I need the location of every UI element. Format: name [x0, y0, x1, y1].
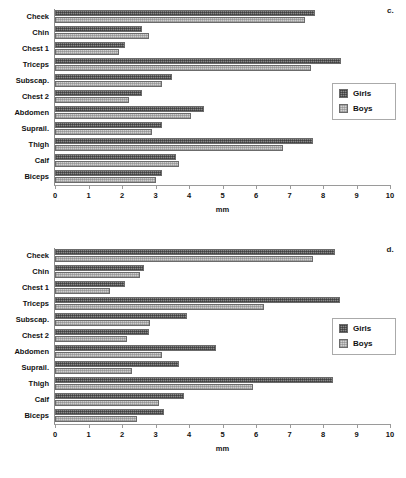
x-tick-mark	[223, 185, 224, 189]
x-tick-label: 7	[287, 191, 291, 200]
bar-girls-chest-1	[55, 281, 125, 287]
y-tick-label: Chest 2	[0, 89, 52, 105]
y-tick-label: Chest 2	[0, 328, 52, 344]
bar-girls-suprail	[55, 361, 179, 367]
bar-group	[55, 280, 390, 296]
legend-entry-girls: Girls	[339, 324, 389, 333]
x-tick-mark	[323, 424, 324, 428]
y-tick-label: Abdomen	[0, 105, 52, 121]
bar-boys-thigh	[55, 145, 283, 151]
bar-boys-subscap	[55, 81, 162, 87]
bar-girls-abdomen	[55, 345, 216, 351]
x-tick-label: 7	[287, 430, 291, 439]
y-tick-label: Biceps	[0, 408, 52, 424]
x-tick-label: 6	[254, 430, 258, 439]
legend-label-boys: Boys	[353, 339, 373, 348]
x-tick-mark	[357, 424, 358, 428]
bar-boys-chest-2	[55, 97, 129, 103]
y-tick-label: Calf	[0, 392, 52, 408]
bar-group	[55, 121, 390, 137]
bar-boys-cheek	[55, 256, 313, 262]
x-tick-label: 1	[86, 191, 90, 200]
bar-group	[55, 9, 390, 25]
bar-boys-chest-1	[55, 49, 119, 55]
bar-girls-biceps	[55, 170, 162, 176]
x-tick-mark	[290, 424, 291, 428]
bar-group	[55, 25, 390, 41]
legend-d: Girls Boys	[332, 318, 396, 355]
legend-swatch-boys-icon	[339, 104, 348, 113]
legend-swatch-girls-icon	[339, 324, 348, 333]
bar-group	[55, 57, 390, 73]
bar-group	[55, 360, 390, 376]
x-tick-label: 8	[321, 430, 325, 439]
y-tick-label: Chin	[0, 25, 52, 41]
x-tick-label: 9	[354, 191, 358, 200]
bar-girls-triceps	[55, 58, 341, 64]
x-tick-label: 10	[386, 430, 394, 439]
bar-boys-chin	[55, 272, 140, 278]
x-axis-title-c: mm	[55, 205, 390, 214]
x-tick-label: 9	[354, 430, 358, 439]
bar-girls-thigh	[55, 377, 333, 383]
x-tick-label: 2	[120, 191, 124, 200]
bar-girls-chest-2	[55, 90, 142, 96]
bar-girls-chin	[55, 26, 142, 32]
bar-group	[55, 392, 390, 408]
x-tick-label: 4	[187, 430, 191, 439]
x-tick-mark	[390, 185, 391, 189]
bar-boys-triceps	[55, 304, 264, 310]
y-tick-label: Chest 1	[0, 41, 52, 57]
x-tick-mark	[156, 424, 157, 428]
bar-girls-subscap	[55, 74, 172, 80]
y-tick-label: Chin	[0, 264, 52, 280]
y-tick-label: Triceps	[0, 296, 52, 312]
legend-label-girls: Girls	[353, 89, 371, 98]
x-tick-mark	[390, 424, 391, 428]
bar-boys-chin	[55, 33, 149, 39]
y-tick-label: Thigh	[0, 376, 52, 392]
bar-boys-biceps	[55, 416, 137, 422]
bar-boys-suprail	[55, 368, 132, 374]
bar-girls-subscap	[55, 313, 187, 319]
y-tick-label: Thigh	[0, 137, 52, 153]
bar-girls-biceps	[55, 409, 164, 415]
legend-entry-girls: Girls	[339, 89, 389, 98]
legend-c: Girls Boys	[332, 83, 396, 120]
bar-group	[55, 41, 390, 57]
legend-entry-boys: Boys	[339, 339, 389, 348]
x-tick-label: 5	[220, 430, 224, 439]
bar-group	[55, 264, 390, 280]
bar-group	[55, 169, 390, 185]
bar-girls-calf	[55, 393, 184, 399]
x-tick-mark	[189, 424, 190, 428]
bar-girls-chest-1	[55, 42, 125, 48]
x-tick-label: 5	[220, 191, 224, 200]
x-tick-mark	[256, 424, 257, 428]
x-tick-mark	[357, 185, 358, 189]
y-tick-label: Suprail.	[0, 121, 52, 137]
x-tick-label: 6	[254, 191, 258, 200]
x-tick-mark	[323, 185, 324, 189]
x-tick-mark	[89, 424, 90, 428]
bar-boys-triceps	[55, 65, 311, 71]
y-tick-label: Biceps	[0, 169, 52, 185]
bar-group	[55, 248, 390, 264]
bar-girls-chin	[55, 265, 144, 271]
bar-group	[55, 408, 390, 424]
x-tick-label: 1	[86, 430, 90, 439]
bar-group	[55, 137, 390, 153]
x-tick-mark	[290, 185, 291, 189]
bar-girls-cheek	[55, 10, 315, 16]
bar-group	[55, 296, 390, 312]
x-axis-title-d: mm	[55, 444, 390, 453]
y-tick-label: Triceps	[0, 57, 52, 73]
bar-girls-abdomen	[55, 106, 204, 112]
bar-group	[55, 376, 390, 392]
x-tick-mark	[55, 185, 56, 189]
x-tick-mark	[55, 424, 56, 428]
y-tick-label: Abdomen	[0, 344, 52, 360]
chart-panel-c: c. Cheek Chin Chest 1 Triceps Subscap. C…	[0, 0, 406, 239]
bar-girls-triceps	[55, 297, 340, 303]
bar-girls-cheek	[55, 249, 335, 255]
